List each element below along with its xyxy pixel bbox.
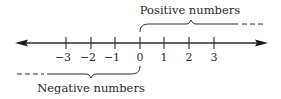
tick-labels: −3 −2 −1 0 1 2 3: [55, 51, 218, 64]
tick-label-minus-1: −1: [104, 51, 120, 64]
positive-brace-curve: [140, 20, 238, 32]
number-line-svg: −3 −2 −1 0 1 2 3 Positive numbers Negati…: [0, 0, 281, 99]
axis: [15, 40, 268, 47]
tick-label-1: 1: [161, 51, 168, 64]
negative-brace-curve: [47, 66, 140, 78]
tick-label-3: 3: [211, 51, 218, 64]
tick-label-0: 0: [137, 51, 144, 64]
negative-brace: [17, 66, 140, 78]
tick-label-minus-3: −3: [55, 51, 71, 64]
positive-brace: [140, 20, 266, 32]
positive-numbers-label: Positive numbers: [140, 3, 240, 17]
tick-label-2: 2: [186, 51, 193, 64]
tick-label-minus-2: −2: [80, 51, 96, 64]
negative-numbers-label: Negative numbers: [37, 81, 145, 95]
number-line-diagram: −3 −2 −1 0 1 2 3 Positive numbers Negati…: [0, 0, 281, 99]
